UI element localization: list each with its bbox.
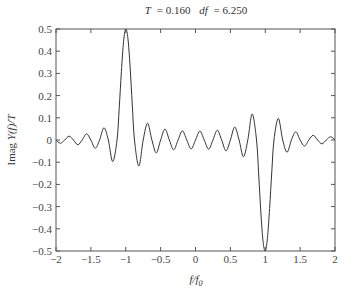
chart: T = 0.160 df = 6.250 −2−1.5−1−0.500.511.… xyxy=(0,0,355,295)
y-tick-label: −0.1 xyxy=(32,156,52,168)
y-axis-title: Imag Y(f)/T xyxy=(5,114,18,166)
y-axis: 0.50.40.30.20.10−0.1−0.2−0.3−0.4−0.5 xyxy=(32,23,335,257)
title-t-symbol: T xyxy=(145,4,152,16)
chart-title: T = 0.160 df = 6.250 xyxy=(145,4,248,16)
y-tick-label: 0.5 xyxy=(38,23,52,35)
x-tick-label: 0.5 xyxy=(224,253,238,265)
y-axis-title-imag: Imag xyxy=(5,140,17,165)
y-tick-label: −0.5 xyxy=(32,245,52,257)
x-axis-title: f/f0 xyxy=(189,273,202,288)
y-tick-label: −0.2 xyxy=(32,178,52,190)
x-tick-label: 0 xyxy=(193,253,199,265)
x-axis: −2−1.5−1−0.500.511.52 xyxy=(50,29,338,265)
y-axis-title-expr: Y(f)/T xyxy=(5,114,18,141)
y-tick-label: 0.3 xyxy=(38,67,52,79)
title-t-value: = 0.160 xyxy=(157,4,191,16)
x-tick-label: 1.5 xyxy=(293,253,307,265)
x-tick-label: 1 xyxy=(263,253,269,265)
x-tick-label: −0.5 xyxy=(151,253,171,265)
y-tick-label: −0.3 xyxy=(32,201,52,213)
title-df-value: = 6.250 xyxy=(213,4,247,16)
y-tick-label: 0 xyxy=(47,134,53,146)
y-tick-label: 0.4 xyxy=(38,45,52,57)
x-tick-label: −1.5 xyxy=(81,253,101,265)
title-df-symbol: df xyxy=(199,4,210,16)
x-tick-label: 2 xyxy=(332,253,338,265)
y-tick-label: 0.1 xyxy=(38,112,52,124)
y-tick-label: −0.4 xyxy=(32,223,52,235)
y-tick-label: 0.2 xyxy=(38,90,52,102)
data-line xyxy=(56,29,335,251)
x-tick-label: −1 xyxy=(120,253,132,265)
x-axis-subscript: 0 xyxy=(199,279,203,288)
